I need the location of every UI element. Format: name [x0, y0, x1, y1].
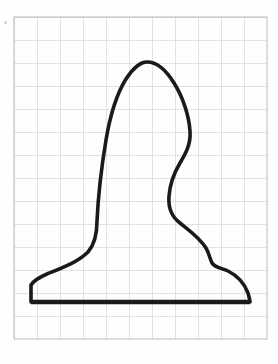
drawing-canvas: [0, 0, 278, 364]
silhouette-figure: [0, 0, 278, 364]
